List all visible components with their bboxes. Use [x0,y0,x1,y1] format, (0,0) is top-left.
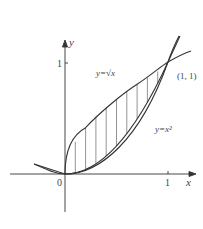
y-axis-arrow-icon [63,40,68,47]
shaded-region-hatching [75,72,157,173]
y-tick-label: 1 [57,58,62,69]
x-tick-label: 1 [165,177,170,188]
curve-y-equals-x-squared [34,36,180,174]
area-diagram: y 1 0 1 x y=√x y=x² (1, 1) [0,0,203,229]
label-y-equals-sqrt-x: y=√x [95,68,115,78]
origin-label: 0 [57,177,62,188]
label-y-equals-x-squared: y=x² [154,124,172,134]
y-axis-label: y [68,36,74,48]
x-axis-label: x [185,176,191,188]
curve-y-equals-sqrt-x [65,51,191,174]
intersection-label: (1, 1) [177,71,197,81]
